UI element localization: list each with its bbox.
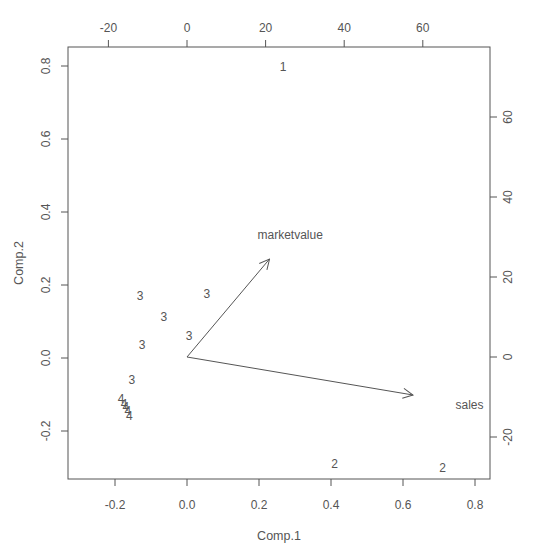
top-tick-label: 20 — [259, 21, 273, 35]
x-tick-label: -0.2 — [105, 498, 126, 512]
top-tick-label: 0 — [184, 21, 191, 35]
loading-arrow-sales — [187, 357, 413, 395]
top-tick-label: -20 — [100, 21, 118, 35]
y-tick-label: 0.8 — [39, 57, 53, 74]
observation-label: 3 — [137, 289, 144, 303]
bottom-axis: -0.20.00.20.40.60.8 — [105, 479, 484, 512]
observation-label: 2 — [439, 461, 446, 475]
right-tick-label: 20 — [501, 270, 515, 284]
right-tick-label: 60 — [501, 110, 515, 124]
biplot-chart: -0.20.00.20.40.60.8 -0.20.00.20.40.60.8 … — [0, 0, 535, 557]
y-tick-label: 0.4 — [39, 203, 53, 220]
loading-arrow-marketvalue — [187, 259, 270, 357]
observation-points: 12233333344444 — [118, 60, 446, 476]
right-tick-label: -20 — [501, 428, 515, 446]
top-axis: -200204060 — [100, 21, 430, 47]
observation-label: 2 — [331, 457, 338, 471]
y-tick-label: -0.2 — [39, 420, 53, 441]
x-tick-label: 0.2 — [251, 498, 268, 512]
loading-label-marketvalue: marketvalue — [257, 228, 323, 242]
observation-label: 3 — [186, 329, 193, 343]
loading-label-sales: sales — [455, 398, 483, 412]
y-tick-label: 0.2 — [39, 276, 53, 293]
observation-label: 3 — [161, 310, 168, 324]
x-tick-label: 0.6 — [395, 498, 412, 512]
top-tick-label: 40 — [338, 21, 352, 35]
right-tick-label: 40 — [501, 190, 515, 204]
y-tick-label: 0.0 — [39, 349, 53, 366]
observation-label: 3 — [139, 338, 146, 352]
x-tick-label: 0.4 — [323, 498, 340, 512]
observation-label: 3 — [203, 287, 210, 301]
left-axis: -0.20.00.20.40.60.8 — [39, 57, 68, 441]
x-tick-label: 0.0 — [179, 498, 196, 512]
observation-label: 4 — [126, 409, 133, 423]
x-axis-title: Comp.1 — [257, 529, 301, 543]
right-tick-label: 0 — [501, 353, 515, 360]
observation-label: 3 — [129, 373, 136, 387]
loading-arrows: marketvaluesales — [187, 228, 483, 412]
right-axis: -200204060 — [490, 110, 515, 446]
observation-label: 1 — [280, 60, 287, 74]
y-tick-label: 0.6 — [39, 130, 53, 147]
y-axis-title: Comp.2 — [12, 241, 26, 285]
top-tick-label: 60 — [416, 21, 430, 35]
x-tick-label: 0.8 — [467, 498, 484, 512]
